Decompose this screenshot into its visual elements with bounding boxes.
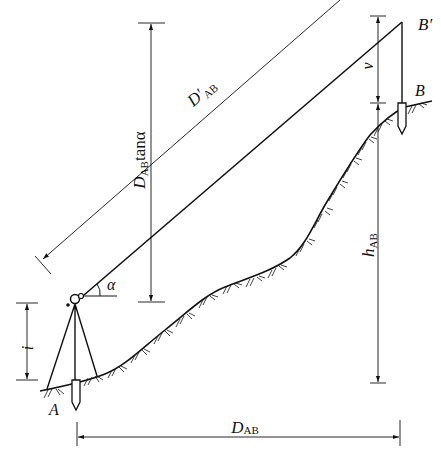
label-dtan-tail: tanα [130,131,149,161]
instrument-height-dimension [16,303,38,380]
label-dab-sub: AB [244,424,259,436]
slope-distance-dimension [35,0,340,274]
label-i: i [19,346,36,350]
svg-text:DAB: DAB [230,418,259,437]
label-slope-distance: D′AB [183,75,220,111]
label-b: B [415,82,425,99]
label-a: A [48,401,59,418]
svg-text:D′AB: D′AB [183,75,220,111]
label-dab-tan-alpha: DABtanα [130,131,150,189]
label-h-sub: AB [367,233,379,248]
label-dab-main: D [230,418,244,437]
v-and-h-dimension [370,16,386,383]
label-dtan-main: D [130,176,149,190]
svg-text:DABtanα: DABtanα [130,131,150,189]
svg-text:hAB: hAB [359,233,379,257]
label-h-main: h [359,248,378,257]
label-b-prime: B′ [418,15,432,34]
label-horizontal-distance: DAB [230,418,259,437]
stake-a [72,380,80,410]
label-alpha: α [107,276,116,293]
label-v: v [359,62,376,70]
label-h-ab: hAB [359,233,379,257]
theodolite-instrument [47,294,97,390]
leveling-diagram: B′ B A α i v hAB DABtanα D′AB DAB [0,0,441,469]
stake-b [398,103,406,134]
label-dtan-sub: AB [138,161,150,176]
